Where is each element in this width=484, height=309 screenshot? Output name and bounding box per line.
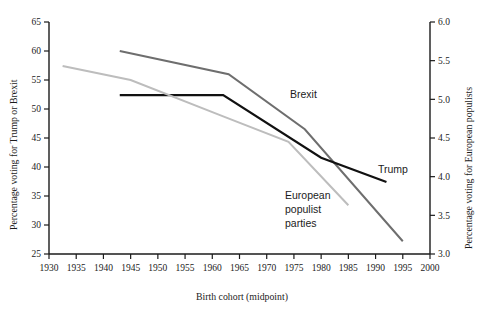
y-tick-label-left: 25 [32, 249, 42, 259]
y-tick-label-left: 50 [32, 104, 42, 114]
y-tick-label-right: 3.5 [438, 211, 450, 221]
x-tick-label: 1970 [257, 263, 276, 273]
y-tick-label-left: 40 [32, 162, 42, 172]
series-label-populist-line1: European [285, 189, 331, 201]
series-label-populist-line3: parties [285, 217, 317, 229]
series-label-brexit: Brexit [290, 88, 317, 100]
y-tick-label-right: 5.0 [438, 95, 450, 105]
x-axis-title: Birth cohort (midpoint) [196, 291, 288, 303]
y-axis-title-left: Percentage voting for Trump or Brexit [8, 79, 19, 230]
y-tick-label-left: 35 [32, 191, 42, 201]
y-tick-label-right: 5.5 [438, 56, 450, 66]
y-tick-label-right: 6.0 [438, 17, 450, 27]
y-tick-label-right: 4.5 [438, 133, 450, 143]
x-tick-label: 1950 [148, 263, 167, 273]
x-tick-label: 1995 [393, 263, 412, 273]
y-tick-label-left: 30 [32, 220, 42, 230]
x-tick-label: 1965 [230, 263, 249, 273]
x-tick-label: 2000 [421, 263, 440, 273]
y-tick-label-left: 65 [32, 17, 42, 27]
x-tick-label: 1990 [366, 263, 385, 273]
x-tick-label: 1945 [121, 263, 140, 273]
series-label-trump: Trump [378, 163, 408, 175]
y-tick-label-right: 4.0 [438, 172, 450, 182]
x-tick-label: 1975 [284, 263, 303, 273]
x-tick-label: 1935 [67, 263, 86, 273]
y-tick-label-left: 45 [32, 133, 42, 143]
y-tick-label-left: 55 [32, 75, 42, 85]
chart-container: 2530354045505560653.03.54.04.55.05.56.01… [0, 0, 484, 309]
x-tick-label: 1960 [203, 263, 222, 273]
series-label-populist-line2: populist [285, 203, 321, 215]
x-tick-label: 1940 [94, 263, 113, 273]
x-tick-label: 1985 [339, 263, 358, 273]
x-tick-label: 1980 [312, 263, 331, 273]
line-chart: 2530354045505560653.03.54.04.55.05.56.01… [0, 0, 484, 309]
y-axis-title-right: Percentage voting for European populists [463, 87, 474, 249]
x-tick-label: 1955 [176, 263, 195, 273]
y-tick-label-right: 3.0 [438, 249, 450, 259]
y-tick-label-left: 60 [32, 46, 42, 56]
x-tick-label: 1930 [40, 263, 59, 273]
